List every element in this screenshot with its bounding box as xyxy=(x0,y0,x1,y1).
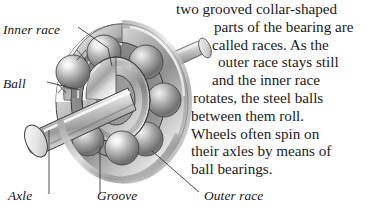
figure-canvas: Inner race Ball Axle Groove Outer race t… xyxy=(0,0,378,215)
callout-label-ball: Ball xyxy=(3,76,26,92)
body-text-line: between them roll. xyxy=(174,107,378,125)
callout-label-inner-race: Inner race xyxy=(3,22,60,38)
body-text-line: their axles by means of xyxy=(174,142,378,160)
body-text-line: Wheels often spin on xyxy=(174,125,378,143)
body-text-line: rotates, the steel balls xyxy=(174,89,378,107)
body-text-line: and the inner race xyxy=(174,71,378,89)
body-text-line: two grooved collar-shaped xyxy=(174,0,378,18)
body-text-line: ball bearings. xyxy=(174,160,378,178)
body-text-line: called races. As the xyxy=(174,36,378,54)
body-text-block: two grooved collar-shapedparts of the be… xyxy=(174,0,378,190)
callout-label-groove: Groove xyxy=(97,188,137,204)
body-text-line: outer race stays still xyxy=(174,53,378,71)
callout-label-axle: Axle xyxy=(8,188,32,204)
body-text-line: parts of the bearing are xyxy=(174,18,378,36)
callout-label-outer-race: Outer race xyxy=(204,188,263,204)
